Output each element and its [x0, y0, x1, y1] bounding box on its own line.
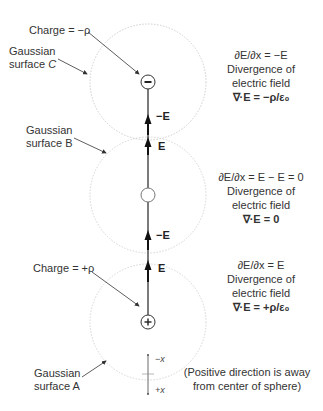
- pointer-charge-minus: [88, 32, 139, 74]
- x-axis-indicator: [142, 354, 154, 395]
- charge-minus-label: Charge = −ρ: [29, 24, 90, 37]
- pointer-surface-b: [74, 138, 106, 153]
- equations-surface-c: ∂E/∂x = −E Divergence of electric field …: [196, 48, 323, 104]
- derivative-a: ∂E/∂x = E: [196, 258, 323, 272]
- pointer-charge-plus: [92, 272, 139, 306]
- surface-a-label-line1: Gaussian: [34, 367, 80, 380]
- surface-c-label-line2: surface C: [9, 58, 56, 71]
- divergence-subtitle-b: electric field: [196, 198, 323, 212]
- field-label-c-top: −E: [156, 110, 170, 122]
- surface-c-label-prefix: surface: [9, 58, 48, 70]
- axis-neg-label: −x: [155, 354, 165, 364]
- direction-note-line2: from center of sphere): [162, 379, 323, 393]
- direction-note: (Positive direction is away from center …: [162, 365, 323, 393]
- divergence-title-b: Divergence of: [196, 184, 323, 198]
- surface-b-label-line1: Gaussian: [26, 124, 72, 137]
- positive-charge-icon: [141, 315, 155, 329]
- divergence-value-b: ∇·E = 0: [196, 212, 323, 226]
- neutral-point-icon: [141, 188, 155, 202]
- divergence-value-a: ∇·E = +ρ/ε₀: [196, 300, 323, 314]
- field-label-a-top: E: [158, 262, 165, 274]
- divergence-value-c: ∇·E = −ρ/ε₀: [196, 90, 323, 104]
- divergence-title-a: Divergence of: [196, 272, 323, 286]
- pointer-surface-c: [58, 59, 87, 74]
- surface-c-label-line1: Gaussian: [9, 45, 55, 58]
- divergence-subtitle-c: electric field: [196, 76, 323, 90]
- divergence-subtitle-a: electric field: [196, 286, 323, 300]
- negative-charge-icon: [141, 75, 155, 89]
- charge-plus-label: Charge = +ρ: [33, 262, 94, 275]
- field-label-c-bottom: E: [158, 140, 165, 152]
- equations-surface-a: ∂E/∂x = E Divergence of electric field ∇…: [196, 258, 323, 314]
- field-arrow-c-top: [145, 114, 152, 135]
- surface-c-label-letter: C: [48, 58, 56, 70]
- divergence-title-c: Divergence of: [196, 62, 323, 76]
- field-label-b-bottom: −E: [156, 229, 170, 241]
- pointer-surface-a: [82, 361, 106, 377]
- surface-a-label-line2: surface A: [34, 380, 80, 393]
- field-arrow-a-top: [145, 260, 152, 282]
- surface-b-label-line2: surface B: [26, 137, 72, 150]
- derivative-b: ∂E/∂x = E − E = 0: [196, 170, 323, 184]
- direction-note-line1: (Positive direction is away: [162, 365, 323, 379]
- field-arrow-b-bottom: [145, 230, 152, 250]
- derivative-c: ∂E/∂x = −E: [196, 48, 323, 62]
- equations-surface-b: ∂E/∂x = E − E = 0 Divergence of electric…: [196, 170, 323, 226]
